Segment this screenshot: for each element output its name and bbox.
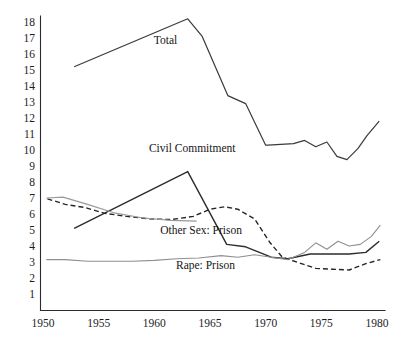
annotation-other-sex-prison: Other Sex: Prison (160, 224, 242, 236)
x-tick-1965: 1965 (199, 317, 222, 329)
y-tick-8: 8 (29, 176, 35, 188)
y-tick-18: 18 (24, 16, 36, 28)
y-tick-5: 5 (29, 224, 35, 236)
y-tick-15: 15 (24, 64, 36, 76)
y-axis-tick-labels: 181716151413121110987654321 (24, 16, 36, 300)
x-tick-1975: 1975 (310, 317, 333, 329)
y-tick-2: 2 (29, 272, 35, 284)
x-tick-1955: 1955 (87, 317, 110, 329)
y-tick-7: 7 (29, 192, 35, 204)
y-tick-16: 16 (24, 48, 36, 60)
x-tick-1980: 1980 (366, 317, 389, 329)
y-tick-13: 13 (24, 96, 36, 108)
y-tick-9: 9 (29, 160, 35, 172)
y-tick-11: 11 (24, 128, 35, 140)
annotation-civil-commitment: Civil Commitment (149, 142, 236, 154)
series-line-other-sex-prison-pre-1963-gray-segment (46, 197, 196, 221)
x-tick-1960: 1960 (143, 317, 166, 329)
y-tick-17: 17 (24, 32, 36, 44)
y-tick-1: 1 (29, 288, 35, 300)
y-tick-10: 10 (24, 144, 36, 156)
series-line-total (74, 19, 379, 160)
y-tick-12: 12 (24, 112, 36, 124)
y-tick-14: 14 (24, 80, 36, 92)
x-axis-tick-labels: 1950195519601965197019751980 (32, 317, 389, 329)
x-tick-1970: 1970 (254, 317, 277, 329)
annotation-total: Total (154, 34, 177, 46)
y-tick-3: 3 (29, 256, 35, 268)
x-tick-1950: 1950 (32, 317, 55, 329)
line-chart: 181716151413121110987654321 195019551960… (0, 0, 407, 348)
y-tick-6: 6 (29, 208, 35, 220)
y-tick-4: 4 (29, 240, 35, 252)
series-annotations: TotalCivil CommitmentOther Sex: PrisonRa… (149, 34, 242, 272)
annotation-rape-prison: Rape: Prison (176, 259, 235, 272)
figure-container: 181716151413121110987654321 195019551960… (0, 0, 407, 348)
